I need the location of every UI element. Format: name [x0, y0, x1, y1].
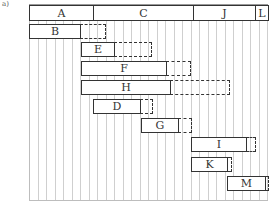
- activity-k: K: [191, 157, 228, 172]
- slack-f: [166, 61, 191, 76]
- activity-d: D: [93, 99, 141, 114]
- slack-e: [114, 42, 152, 57]
- phase-c: C: [93, 5, 194, 21]
- slack-d: [140, 99, 153, 114]
- activity-b: B: [29, 24, 81, 39]
- phase-j: J: [193, 5, 256, 21]
- phase-a: A: [29, 5, 94, 21]
- activity-h: H: [81, 80, 171, 95]
- activity-i: I: [191, 137, 247, 152]
- phase-l: L: [255, 5, 269, 21]
- slack-b: [80, 24, 106, 39]
- figure-label: a): [2, 0, 9, 8]
- activity-e: E: [81, 42, 115, 57]
- activity-g: G: [141, 118, 179, 133]
- activity-f: F: [81, 61, 167, 76]
- activity-m: M: [227, 176, 266, 191]
- slack-g: [178, 118, 192, 133]
- gantt-chart: a) ACJL BEFHDGIKM: [0, 0, 273, 204]
- slack-i: [246, 137, 256, 152]
- slack-h: [170, 80, 230, 95]
